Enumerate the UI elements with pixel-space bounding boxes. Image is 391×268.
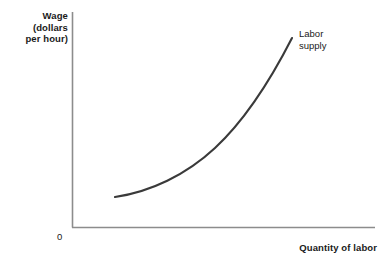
x-axis-label: Quantity of labor	[240, 242, 377, 254]
labor-supply-curve-label: Labor supply	[299, 28, 326, 51]
labor-supply-curve	[115, 38, 292, 197]
labor-supply-chart: Wage (dollars per hour) Quantity of labo…	[0, 0, 391, 268]
origin-label: 0	[57, 231, 62, 242]
y-axis-label: Wage (dollars per hour)	[0, 10, 68, 45]
